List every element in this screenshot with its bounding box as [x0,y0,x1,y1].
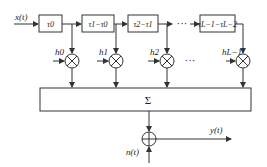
delay-ellipsis: ··· [177,17,188,29]
svg-text:Σ: Σ [145,94,151,106]
multiplier-2: h2 [148,47,174,68]
output-label: y(t) [209,125,223,135]
tapped-delay-line-diagram: x(t) τ0 τ1−τ0 τ2−τ1 ··· τL−1−τL−2 h0 h1 [0,0,267,167]
summation-box: Σ [40,88,251,111]
noise-label: n(t) [126,147,139,157]
tap-label-2: h2 [150,47,160,57]
svg-text:τ1−τ0: τ1−τ0 [88,20,107,29]
multiplier-1: h1 [97,47,123,68]
delay-box-2: τ2−τ1 [128,15,158,32]
tap-label-last: hL−1 [222,47,242,57]
noise-adder [142,132,156,146]
svg-text:τ0: τ0 [47,20,54,29]
tap-label-1: h1 [99,47,108,57]
delay-box-1: τ1−τ0 [82,15,114,32]
svg-text:τ2−τ1: τ2−τ1 [133,20,152,29]
tap-label-0: h0 [55,47,65,57]
svg-text:τL−1−τL−2: τL−1−τL−2 [198,20,237,29]
delay-box-0: τ0 [39,15,62,32]
tap-ellipsis: ··· [185,54,196,66]
delay-box-last: τL−1−τL−2 [198,15,237,32]
input-label: x(t) [14,12,28,22]
multiplier-0: h0 [53,47,79,68]
multiplier-last: hL−1 [222,47,250,68]
